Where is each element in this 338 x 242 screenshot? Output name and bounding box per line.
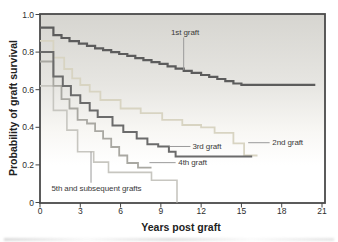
y-tick-label-0.4: 0.4	[7, 122, 34, 132]
curve-label-5th-and-subsequent-grafts: 5th and subsequent grafts	[51, 184, 141, 193]
x-tick-label-6: 6	[111, 206, 131, 216]
cropped-page-artifact	[4, 238, 334, 241]
x-tick-label-21: 21	[312, 206, 332, 216]
km-survival-figure: Probability of graft survival Years post…	[0, 0, 338, 242]
y-tick-label-1.0: 1.0	[7, 10, 34, 20]
x-tick-label-18: 18	[272, 206, 292, 216]
x-axis-title: Years post graft	[141, 221, 220, 233]
x-tick-label-15: 15	[231, 206, 251, 216]
x-tick-label-0: 0	[30, 206, 50, 216]
curve-label-2nd-graft: 2nd graft	[272, 138, 303, 147]
plot-frame	[40, 14, 325, 203]
y-axis-title: Probability of graft survival	[7, 40, 19, 176]
y-tick-label-0.6: 0.6	[7, 85, 34, 95]
curve-label-3rd-graft: 3rd graft	[192, 142, 221, 151]
y-tick-label-0.2: 0.2	[7, 160, 34, 170]
curve-label-1st-graft: 1st graft	[171, 28, 199, 37]
curve-label-4th-graft: 4th graft	[178, 158, 206, 167]
x-tick-label-9: 9	[151, 206, 171, 216]
x-tick-label-12: 12	[191, 206, 211, 216]
y-tick-label-0.8: 0.8	[7, 47, 34, 57]
x-tick-label-3: 3	[70, 206, 90, 216]
